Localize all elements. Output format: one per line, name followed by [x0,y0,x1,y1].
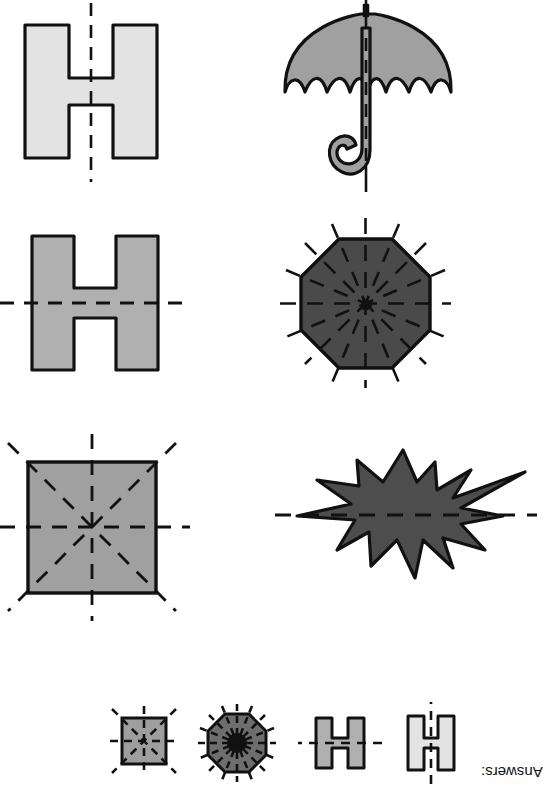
problem-4-figure [275,210,549,420]
answer-square-figure [98,698,188,788]
answer-h-vertical-figure [388,698,478,788]
octagon-group [280,218,451,388]
problem-6-star-burst[interactable] [275,420,549,630]
problem-1-letter-h[interactable] [0,0,275,210]
problem-5-figure [0,420,275,630]
answer-item-octagon[interactable] [192,698,282,788]
answers-label: Answers: [481,764,543,781]
symmetry-worksheet: Answers: [0,0,549,793]
mini-h-shape [316,718,364,768]
problem-3-figure [0,210,275,420]
answers-strip: Answers: [0,690,549,793]
problem-5-square[interactable] [0,420,275,630]
answer-octagon-figure [192,698,282,788]
answer-h-horizontal-figure [296,698,386,788]
answer-item-letter-h-vertical[interactable] [388,698,478,788]
answer-item-square[interactable] [98,698,188,788]
problem-2-figure [275,0,549,210]
problem-1-figure [0,0,275,210]
problem-3-letter-h[interactable] [0,210,275,420]
problem-6-figure [275,420,549,630]
problem-4-octagon[interactable] [275,210,549,420]
problem-2-umbrella[interactable] [275,0,549,210]
answer-item-letter-h-horizontal[interactable] [296,698,386,788]
